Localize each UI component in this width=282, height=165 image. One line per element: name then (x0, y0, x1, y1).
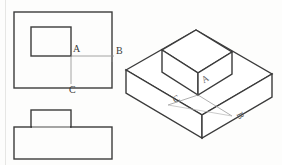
label-a-top-view: A (73, 44, 80, 54)
engineering-drawing-canvas (0, 0, 282, 165)
top-view-inner-rectangle (31, 27, 71, 56)
label-c-top-view: C (69, 85, 76, 95)
front-view-group (14, 110, 112, 159)
drawing-page: A B C A C B (0, 0, 282, 165)
front-view-base-rectangle (14, 127, 112, 159)
top-view-group (14, 12, 114, 88)
front-view-step-rectangle (31, 110, 71, 127)
label-b-top-view: B (116, 46, 123, 56)
top-view-outer-rectangle (14, 12, 112, 88)
isometric-view-group (126, 30, 272, 138)
